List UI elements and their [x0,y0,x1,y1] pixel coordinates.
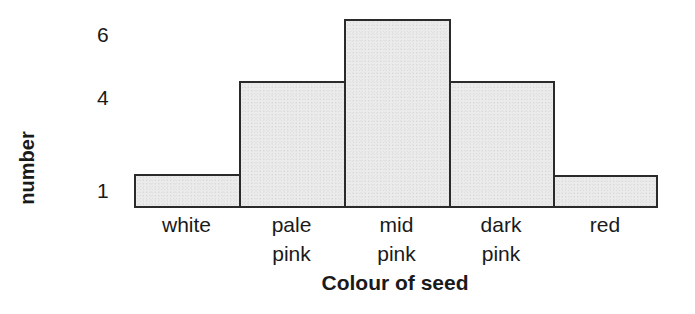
y-tick-6: 6 [97,23,109,47]
x-tick-dark-pink: dark pink [449,210,553,268]
x-tick-mid-pink: mid pink [344,210,449,268]
y-tick-1: 1 [97,179,109,203]
x-tick-red: red [553,210,657,239]
y-tick-4: 4 [97,86,109,110]
bar-white [134,174,241,208]
bar-mid-pink [344,19,451,208]
x-axis-label: Colour of seed [0,271,695,295]
bar-dark-pink [449,81,555,208]
x-tick-pale-pink: pale pink [239,210,344,268]
x-tick-white: white [134,210,239,239]
y-axis-label: number [16,131,39,204]
bar-pale-pink [239,81,346,208]
bar-red [553,175,658,208]
